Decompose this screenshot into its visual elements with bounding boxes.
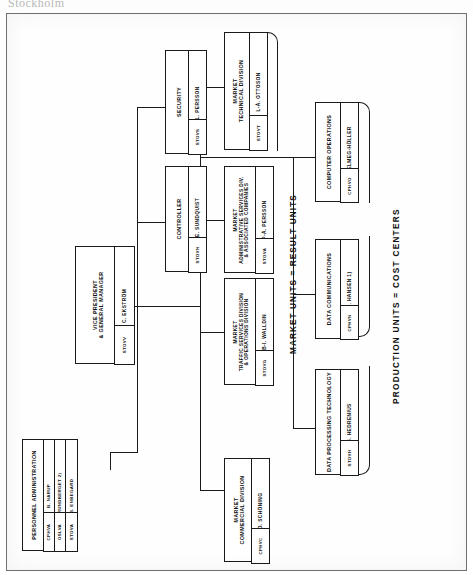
node-market-commercial-title-line1: MARKET — [233, 497, 239, 522]
node-personnel-code-2: STOVA — [69, 524, 74, 540]
node-data-communications[interactable]: DATA COMMUNICATIONS A. HANSEN 1) CPHVN — [315, 239, 357, 339]
node-vice-president-code-cell: STOVV — [114, 325, 135, 365]
node-security-person: L. PERSSON — [195, 86, 201, 119]
node-vice-president-title-line2: & GENERAL MANAGER — [98, 272, 104, 339]
node-security-code-cell: STOVS — [188, 119, 207, 155]
node-data-communications-code-cell: CPHVN — [340, 305, 359, 340]
node-market-admin-title-line1: MARKET — [233, 208, 238, 231]
node-controller-code-cell: STOVN — [188, 237, 207, 273]
node-market-technical-code-cell: STOVT — [249, 115, 268, 151]
node-dp-technology-code: STOVH — [347, 450, 352, 467]
caption-cost-centers: PRODUCTION UNITS = COST CENTERS — [392, 208, 401, 404]
node-market-commercial-title-line2: COMMERCIAL DIVISION — [239, 476, 245, 545]
node-dp-technology-person: B. HEDRENIUS — [347, 403, 353, 442]
node-personnel-code-0: CPHVA — [46, 524, 51, 541]
node-vice-president-person: C. EKSTRÖM — [122, 288, 128, 322]
node-market-commercial-title: MARKET COMMERCIAL DIVISION — [233, 476, 245, 545]
node-market-traffic-services[interactable]: MARKET TRAFFIC SERVICES DIVISION & OPERA… — [224, 278, 272, 385]
node-market-admin-code: STOVA — [262, 248, 267, 264]
node-controller-code: STOVN — [195, 247, 200, 264]
node-computer-operations-code-cell: CPHVO — [340, 168, 359, 203]
node-controller-person: J-E. SUNDQUIST — [195, 197, 201, 241]
node-computer-operations[interactable]: COMPUTER OPERATIONS J. SELMEG-HÖLLER CPH… — [315, 102, 357, 202]
node-market-traffic-title-line1: MARKET — [233, 320, 238, 343]
node-controller-title: CONTROLLER — [176, 199, 182, 240]
node-market-traffic-code: STOVG — [262, 359, 267, 376]
node-security-title: SECURITY — [176, 87, 182, 117]
node-data-processing-technology[interactable]: DATA PROCESSING TECHNOLOGY B. HEDRENIUS … — [315, 369, 357, 475]
node-market-technical-title-line2: TECHNICAL DIVISION — [238, 60, 244, 123]
node-market-traffic-title: MARKET TRAFFIC SERVICES DIVISION & OPERA… — [233, 292, 250, 371]
node-personnel-administration-title: PERSONNEL ADMINISTRATION — [31, 450, 37, 539]
node-market-traffic-title-line3: & OPERATIONS DIVISION — [244, 298, 249, 365]
scan-artifact-text: Stockholm — [8, 0, 65, 11]
node-computer-operations-title: COMPUTER OPERATIONS — [326, 115, 332, 189]
node-market-commercial-division[interactable]: MARKET COMMERCIAL DIVISION O. SCHÖNING C… — [224, 458, 268, 562]
node-market-technical-person: L-Å. OTTOSON — [256, 72, 262, 111]
node-market-commercial-code-cell: CPHVC — [251, 528, 270, 564]
connector-personnel-trunk — [137, 306, 138, 453]
node-market-admin-code-cell: STOVA — [255, 238, 274, 274]
node-market-administrative-services[interactable]: MARKET ADMINISTRATIVE SERVICES DIV. & AS… — [224, 166, 272, 273]
node-dp-technology-title: DATA PROCESSING TECHNOLOGY — [326, 372, 332, 472]
connector-market-commercial — [200, 490, 224, 491]
node-vice-president-title-line1: VICE PRESIDENT — [92, 280, 98, 330]
connector-security — [137, 107, 165, 108]
node-computer-operations-code: CPHVO — [347, 177, 352, 194]
connector-controller — [137, 222, 165, 223]
node-market-admin-title-line3: & ASSOCIATED COMPANIES — [244, 182, 249, 257]
connector-dp-technology — [293, 428, 315, 429]
node-personnel-codebox-2: STOVA — [65, 512, 78, 552]
node-personnel-administration[interactable]: PERSONNEL ADMINISTRATION B. NÄRUP CPHVA … — [22, 439, 77, 551]
node-market-admin-title: MARKET ADMINISTRATIVE SERVICES DIV. & AS… — [233, 176, 250, 263]
scan-artifact-top: Stockholm — [0, 0, 473, 14]
node-controller[interactable]: CONTROLLER J-E. SUNDQUIST STOVN — [165, 166, 205, 272]
node-data-communications-code: CPHVN — [347, 314, 352, 331]
node-market-technical-title: MARKET TECHNICAL DIVISION — [232, 60, 244, 123]
node-vice-president-code: STOVV — [122, 337, 127, 354]
node-market-traffic-title-line2: TRAFFIC SERVICES DIVISION — [238, 292, 243, 371]
node-security-code: STOVS — [195, 129, 200, 146]
node-personnel-code-1: OSLVA — [57, 524, 62, 540]
node-personnel-person-0: B. NÄRUP — [46, 483, 51, 507]
node-market-technical-title-line1: MARKET — [232, 78, 238, 103]
connector-computer-operations — [293, 157, 315, 158]
node-vice-president-title: VICE PRESIDENT & GENERAL MANAGER — [92, 272, 104, 339]
node-market-commercial-person: O. SCHÖNING — [258, 492, 264, 529]
node-market-traffic-person: B-I. WALLDIN — [262, 314, 268, 350]
node-market-commercial-code: CPHVC — [258, 537, 263, 554]
org-chart-sheet: VICE PRESIDENT & GENERAL MANAGER C. EKST… — [6, 13, 467, 571]
connector-personnel-drop — [110, 452, 111, 470]
connector-personnel — [110, 452, 138, 453]
node-market-technical-division[interactable]: MARKET TECHNICAL DIVISION L-Å. OTTOSON S… — [224, 32, 266, 150]
connector-market-traffic — [200, 332, 224, 333]
node-market-admin-title-line2: ADMINISTRATIVE SERVICES DIV. — [238, 176, 243, 263]
connector-staff-trunk — [137, 107, 138, 307]
node-vice-president[interactable]: VICE PRESIDENT & GENERAL MANAGER C. EKST… — [75, 246, 135, 364]
connector-vp-main — [135, 306, 200, 307]
caption-result-units: MARKET UNITS = RESULT UNITS — [289, 194, 298, 354]
node-security[interactable]: SECURITY L. PERSSON STOVS — [165, 50, 205, 154]
node-data-communications-title: DATA COMMUNICATIONS — [326, 253, 332, 325]
node-market-traffic-code-cell: STOVG — [255, 350, 274, 386]
node-dp-technology-code-cell: STOVH — [340, 440, 359, 476]
node-market-admin-person: P-Å. PERSSON — [262, 200, 268, 239]
node-market-technical-code: STOVT — [256, 125, 261, 141]
node-data-communications-person: A. HANSEN 1) — [347, 271, 353, 308]
node-personnel-person-2: B. ENBEGARD — [69, 478, 74, 513]
